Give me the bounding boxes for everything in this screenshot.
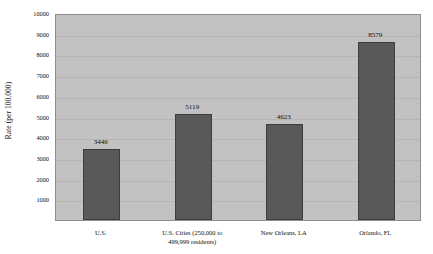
y-axis-tick-label: 9000 [36,32,49,38]
y-axis-tick-label: 6000 [36,94,49,100]
x-axis-category-label: U.S. [55,228,147,237]
x-axis-category-label: Orlando, FL [329,228,421,237]
y-axis-title-text: Rate (per 100,000) [5,82,14,139]
y-axis-tick-label: 2000 [36,176,49,182]
x-axis-category-label: U.S. Cities (250,000 to499,999 residents… [140,228,244,247]
bar-value-label: 5119 [185,104,199,111]
y-axis-tick-labels: 1000200030004000500060007000800090001000… [18,14,52,221]
y-axis-tick-label: 10000 [33,11,49,17]
x-axis-category-label-line: New Orleans, LA [238,228,330,237]
plot-area [55,14,421,221]
bar-value-label: 8579 [368,32,382,39]
y-axis-tick-label: 8000 [36,52,49,58]
x-axis-category-label-line: U.S. [55,228,147,237]
bar-value-label: 3446 [94,139,108,146]
y-axis-tick-label: 7000 [36,73,49,79]
gridline [56,36,420,37]
y-axis-tick-label: 3000 [36,156,49,162]
x-axis-category-label: New Orleans, LA [238,228,330,237]
y-axis-tick-label: 4000 [36,135,49,141]
bar [175,114,212,220]
y-axis-tick-label: 5000 [36,114,49,120]
bar-value-label: 4623 [277,114,291,121]
bar-chart: Rate (per 100,000) 100020003000400050006… [0,0,433,254]
bar [358,42,395,220]
bar [266,124,303,220]
bar [83,149,120,220]
x-axis-category-label-line: 499,999 residents) [140,237,244,246]
x-axis-category-label-line: Orlando, FL [329,228,421,237]
x-axis-category-label-line: U.S. Cities (250,000 to [140,228,244,237]
y-axis-tick-label: 1000 [36,197,49,203]
y-axis-title: Rate (per 100,000) [0,0,18,221]
